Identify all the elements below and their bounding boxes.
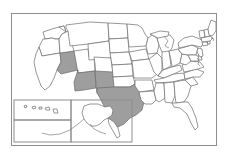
state-alabama[interactable] [164, 82, 175, 103]
state-maine[interactable] [208, 20, 216, 36]
state-arkansas[interactable] [135, 80, 154, 92]
inset-alaska-mainland[interactable] [82, 104, 113, 126]
state-north-dakota[interactable] [108, 23, 128, 39]
state-kansas[interactable] [112, 64, 133, 77]
state-connecticut[interactable] [202, 42, 208, 46]
us-map-svg [12, 14, 216, 145]
state-florida[interactable] [172, 102, 198, 130]
state-south-dakota[interactable] [109, 38, 129, 53]
inset-hawaii-islands[interactable] [24, 105, 58, 113]
state-mississippi[interactable] [154, 83, 165, 102]
state-texas[interactable] [97, 84, 144, 127]
us-choropleth-map-figure [0, 0, 228, 159]
state-minnesota[interactable] [127, 24, 148, 47]
hawaii-inset-frame [14, 100, 71, 120]
state-nebraska[interactable] [110, 52, 132, 65]
inset-aleutian-islands [42, 119, 84, 135]
map-frame-border [11, 13, 217, 146]
hawaii-inset-lower-frame [14, 120, 71, 142]
state-oklahoma[interactable] [113, 76, 135, 87]
state-arizona[interactable] [74, 70, 96, 91]
